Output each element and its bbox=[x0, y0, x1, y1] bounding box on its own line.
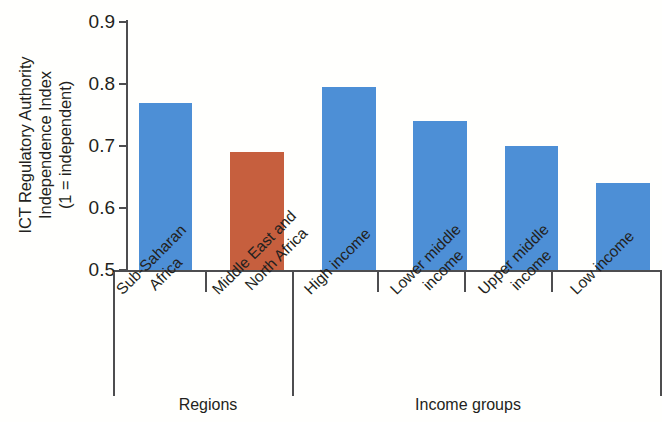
axis-edge-tick-1 bbox=[113, 272, 115, 396]
group-title-income-groups: Income groups bbox=[415, 396, 521, 414]
y-tick-label-0-8: 0.8 bbox=[75, 73, 115, 95]
y-tick-mark-0-7 bbox=[119, 145, 127, 147]
y-tick-mark-0-9 bbox=[119, 21, 127, 23]
y-tick-mark-0-8 bbox=[119, 83, 127, 85]
y-tick-label-0-9: 0.9 bbox=[75, 11, 115, 33]
group-title-regions: Regions bbox=[179, 396, 238, 414]
category-separator-tick-2 bbox=[377, 272, 379, 292]
y-tick-label-0-6: 0.6 bbox=[75, 197, 115, 219]
category-separator-tick-1 bbox=[205, 272, 207, 292]
y-axis-title-line-1: ICT Regulatory Authority bbox=[15, 56, 35, 233]
group-divider-line bbox=[292, 272, 294, 396]
category-separator-tick-4 bbox=[551, 272, 553, 292]
category-separator-tick-3 bbox=[464, 272, 466, 292]
y-tick-label-0-5: 0.5 bbox=[75, 259, 115, 281]
bar-chart: ICT Regulatory Authority Independence In… bbox=[0, 0, 662, 422]
y-axis-title-line-3: (1 = independent) bbox=[55, 81, 75, 209]
y-tick-label-0-7: 0.7 bbox=[75, 135, 115, 157]
y-tick-mark-0-6 bbox=[119, 207, 127, 209]
y-axis-title-line-2: Independence Index bbox=[35, 71, 55, 219]
